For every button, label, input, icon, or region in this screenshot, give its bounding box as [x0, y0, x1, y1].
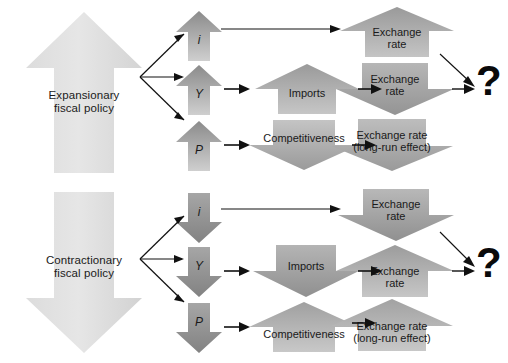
link-imports-to-exchange-top	[358, 82, 386, 96]
link-p-to-competitiveness-top	[224, 138, 254, 152]
link-i-to-exchange-bottom	[221, 202, 345, 216]
question-mark-bottom: ?	[476, 242, 502, 284]
outcome-arrow-exchange-rate-2: Exchangerate	[335, 244, 455, 298]
policy-label: Expansionaryfiscal policy	[24, 89, 144, 115]
link-i-to-exchange-top	[221, 22, 345, 36]
question-mark-top: ?	[476, 60, 502, 102]
outcome-arrow-exchange-rate-1: Exchangerate	[339, 6, 455, 58]
outcome-arrow-exchange-rate-2: Exchangerate	[335, 62, 455, 116]
link-y-to-imports-top	[224, 82, 254, 96]
policy-arrow-expansionary: Expansionaryfiscal policy	[24, 10, 144, 175]
link-p-to-competitiveness-bottom	[224, 320, 254, 334]
variable-label: P	[175, 144, 223, 157]
panel-contractionary: Contractionaryfiscal policy i	[0, 182, 508, 363]
outcome-arrow-exchange-rate-3: Exchange rate(long-run effect)	[330, 118, 454, 172]
link-competitiveness-to-exchange-top	[352, 138, 380, 152]
outcome-label: Exchange rate(long-run effect)	[330, 129, 454, 154]
outcome-label: Exchangerate	[335, 73, 455, 98]
policy-label: Contractionaryfiscal policy	[24, 254, 144, 280]
outcome-arrow-exchange-rate-1: Exchangerate	[337, 188, 455, 242]
fanout-connectors-bottom	[138, 204, 188, 314]
link-imports-to-exchange-bottom	[358, 264, 386, 278]
outcome-label: Exchangerate	[337, 198, 455, 223]
panel-expansionary: Expansionaryfiscal policy i	[0, 0, 508, 182]
diagram-canvas: Expansionaryfiscal policy i	[0, 0, 508, 363]
link-y-to-imports-bottom	[224, 264, 254, 278]
link-competitiveness-to-exchange-bottom	[352, 316, 380, 330]
outcome-label: Exchangerate	[339, 26, 455, 51]
policy-arrow-contractionary: Contractionaryfiscal policy	[24, 190, 144, 355]
outcome-arrow-exchange-rate-3: Exchange rate(long-run effect)	[330, 298, 454, 352]
variable-label: P	[175, 316, 223, 329]
outcome-label: Exchangerate	[335, 265, 455, 290]
fanout-connectors-top	[138, 22, 188, 132]
outcome-label: Exchange rate(long-run effect)	[330, 320, 454, 345]
